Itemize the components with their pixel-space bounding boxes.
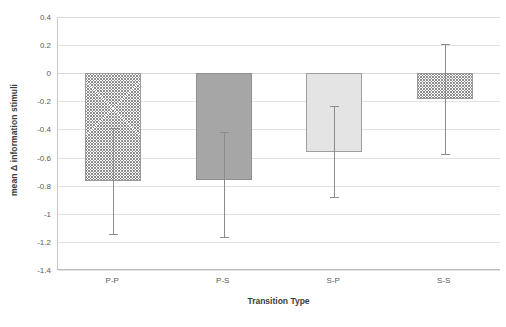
y-axis-tick-label: 0.2: [40, 41, 51, 50]
gridline: [58, 270, 500, 271]
y-axis-tick-label: -0.6: [37, 153, 51, 162]
x-axis-tick-label: P-S: [216, 276, 229, 285]
error-bar-cap-bottom: [330, 197, 339, 198]
gridline: [58, 45, 500, 46]
gridline: [58, 186, 500, 187]
x-axis-title: Transition Type: [57, 296, 500, 306]
x-axis-tick-labels: P-PP-SS-PS-S: [57, 276, 500, 292]
y-axis-tick-label: -0.4: [37, 125, 51, 134]
gridline: [58, 17, 500, 18]
gridline: [58, 214, 500, 215]
y-axis-title-text: mean Δ information stimuli: [9, 84, 19, 196]
error-bar-s-p: [334, 106, 335, 199]
y-axis-tick-label: 0.4: [40, 13, 51, 22]
error-bar-s-s: [445, 44, 446, 155]
y-axis-tick-label: -1.2: [37, 237, 51, 246]
bar-chart: mean Δ information stimuli 0.40.20-0.2-0…: [0, 0, 506, 327]
error-bar-cap-top: [441, 44, 450, 45]
error-bar-cap-top: [109, 128, 118, 129]
error-bar-cap-bottom: [109, 234, 118, 235]
error-bar-cap-bottom: [220, 237, 229, 238]
x-axis-tick-label: P-P: [106, 276, 119, 285]
y-axis-tick-label: -0.8: [37, 181, 51, 190]
error-bar-cap-top: [220, 132, 229, 133]
x-axis-tick-label: S-S: [437, 276, 450, 285]
plot-area: [57, 17, 500, 270]
error-bar-p-p: [113, 128, 114, 235]
y-axis-tick-label: 0: [47, 69, 51, 78]
y-axis-tick-label: -0.2: [37, 97, 51, 106]
error-bar-p-s: [224, 132, 225, 237]
y-axis-tick-label: -1.4: [37, 266, 51, 275]
error-bar-cap-top: [330, 106, 339, 107]
x-axis-tick-label: S-P: [327, 276, 340, 285]
gridline: [58, 242, 500, 243]
y-axis-tick-labels: 0.40.20-0.2-0.4-0.6-0.8-1-1.2-1.4: [22, 0, 56, 327]
y-axis-tick-label: -1: [44, 209, 51, 218]
error-bar-cap-bottom: [441, 154, 450, 155]
